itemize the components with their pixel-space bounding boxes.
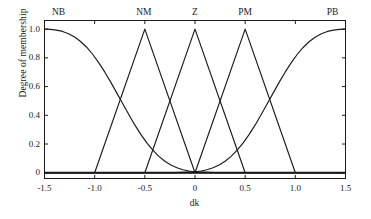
x-axis-tick-labels: -1.5-1.0-0.500.51.01.5 bbox=[0, 184, 371, 198]
plot-frame bbox=[45, 21, 346, 179]
axis-ticks bbox=[45, 21, 346, 179]
x-tick-label: 1.0 bbox=[273, 184, 317, 193]
x-axis-title: dk bbox=[44, 198, 345, 208]
series-curves bbox=[45, 29, 346, 173]
x-tick-label: -0.5 bbox=[123, 184, 167, 193]
x-tick-label: 0.5 bbox=[223, 184, 267, 193]
x-tick-label: 0 bbox=[173, 184, 217, 193]
x-tick-label: 1.5 bbox=[324, 184, 368, 193]
x-tick-label: -1.5 bbox=[23, 184, 67, 193]
membership-function-chart: Degree of membership 00.20.40.60.81.0 NB… bbox=[0, 0, 371, 219]
x-tick-label: -1.0 bbox=[73, 184, 117, 193]
